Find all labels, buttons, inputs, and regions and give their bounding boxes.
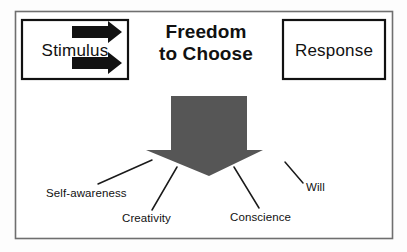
diagram-title-line-2: to Choose <box>159 43 253 64</box>
endowment-label-self-awareness: Self-awareness <box>46 187 127 199</box>
freedom-to-choose-diagram: Stimulus Response Freedom to Choose Self… <box>0 0 407 252</box>
endowment-label-will: Will <box>306 181 325 193</box>
diagram-canvas: Stimulus Response Freedom to Choose Self… <box>0 0 407 252</box>
endowment-label-conscience: Conscience <box>230 211 291 223</box>
stimulus-label: Stimulus <box>42 41 109 60</box>
diagram-title-line-1: Freedom <box>166 21 247 42</box>
endowment-label-creativity: Creativity <box>122 212 171 224</box>
response-label: Response <box>295 41 373 60</box>
